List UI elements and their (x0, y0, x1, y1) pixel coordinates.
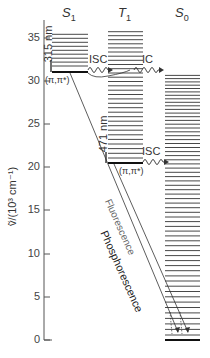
t1-wavelength-label: 471 nm (97, 114, 109, 154)
tick-label: 10 (20, 247, 40, 259)
s0-label: S0 (175, 5, 189, 23)
isc-t1-s0-wavy-arrow (143, 160, 166, 165)
t1-character-label: (π,π*) (119, 166, 143, 176)
tick-label: 35 (20, 31, 40, 43)
s1-character-label: (π,π*) (45, 75, 69, 85)
s0-vibrational-levels (165, 75, 200, 335)
y-axis-title: ṽ/(10³ cm⁻¹) (6, 157, 19, 237)
tick-label: 20 (20, 160, 40, 172)
isc-s1-t1-label: ISC (89, 53, 107, 65)
tick-label: 0 (20, 333, 40, 345)
t1-vibrational-levels (108, 32, 143, 158)
isc-t1-s0-label: ISC (142, 145, 160, 157)
t1-label: T1 (118, 5, 131, 23)
tick-label: 30 (20, 74, 40, 86)
s1-label: S1 (62, 5, 76, 23)
tick-label: 25 (20, 117, 40, 129)
tick-label: 15 (20, 203, 40, 215)
s1-wavelength-label: 315 nm (42, 24, 54, 64)
s1-vibrational-levels (52, 34, 88, 66)
tick-label: 5 (20, 290, 40, 302)
ic-label: IC (142, 53, 153, 65)
